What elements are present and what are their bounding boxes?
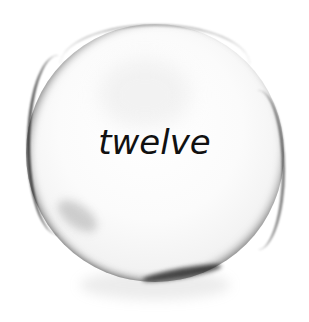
sphere-rim-right: [230, 90, 285, 250]
sphere-rim-top: [60, 24, 250, 106]
sphere-label: twelve: [0, 122, 309, 162]
